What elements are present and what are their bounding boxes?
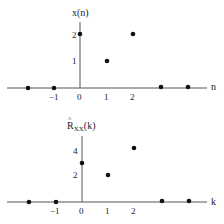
bottom-x-label: k [211,196,216,207]
top-xtick: 1 [104,92,109,102]
chart-canvas: x(n) n −1 0 1 2 1 2 RXX(k) ^ k −1 0 1 2 … [0,0,224,224]
top-points [26,32,191,91]
top-xtick: 2 [130,92,135,102]
bottom-xtick: 1 [105,206,110,216]
top-x-label: n [211,81,216,92]
bottom-points [27,146,192,205]
bottom-chart: RXX(k) ^ k −1 0 1 2 2 4 [7,115,216,216]
bottom-ytick: 2 [73,170,78,180]
bottom-xtick: 2 [131,206,136,216]
bottom-xtick: −1 [50,206,60,216]
top-chart: x(n) n −1 0 1 2 1 2 [7,7,216,102]
bottom-ytick: 4 [73,146,78,156]
top-ytick: 2 [72,30,77,40]
top-ytick: 1 [72,56,77,66]
top-xtick: 0 [77,92,82,102]
bottom-xtick: 0 [79,206,84,216]
top-xtick: −1 [49,92,59,102]
top-y-label: x(n) [72,7,89,19]
